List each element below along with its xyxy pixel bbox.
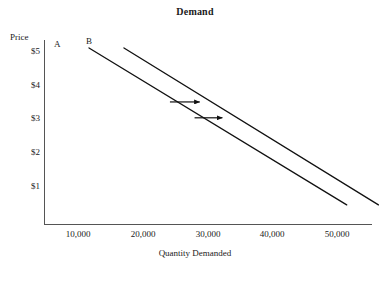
demand-curve-a xyxy=(89,48,347,205)
plot-area xyxy=(0,0,390,282)
demand-curve-b xyxy=(124,48,378,205)
chart-container: Demand Price $5 $4 $3 $2 $1 10,000 20,00… xyxy=(0,0,390,282)
